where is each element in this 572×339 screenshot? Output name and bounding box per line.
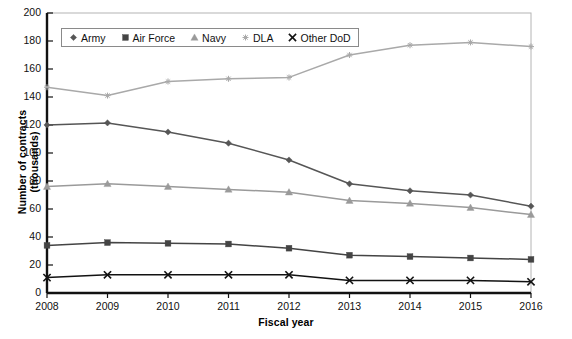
legend-item-label: Air Force [133,32,176,44]
data-point-marker [407,188,413,194]
data-point-marker [105,93,111,99]
x-axis-tick-label: 2009 [85,300,131,312]
data-point-marker [286,245,292,251]
data-point-marker [468,255,474,261]
data-point-marker [44,122,50,128]
data-point-marker [407,254,413,260]
y-axis-tick-label: 180 [7,34,41,46]
series-army [44,120,534,210]
data-point-marker [165,129,171,135]
legend-item-other-dod: Other DoD [288,32,350,44]
x-axis-tick-label: 2010 [145,300,191,312]
y-axis-tick-label: 120 [7,118,41,130]
series-navy [43,180,534,217]
x-axis-tick-label: 2016 [508,300,554,312]
data-point-marker [346,181,352,187]
star-marker-icon [241,33,250,42]
y-axis-tick-label: 20 [7,258,41,270]
series-line [47,42,531,95]
data-point-marker [44,84,50,90]
legend-item-label: Other DoD [300,32,350,44]
x-axis-tick-label: 2011 [206,300,252,312]
data-point-marker [165,79,171,85]
x-axis-tick-label: 2012 [266,300,312,312]
data-point-marker [407,42,413,48]
legend-item-navy: Navy [190,32,226,44]
y-axis-title: Number of contracts (thousands) [16,82,40,242]
data-point-marker [528,257,534,263]
legend-item-army: Army [69,32,106,44]
square-marker-icon [121,33,130,42]
series-other-dod [43,271,534,285]
data-point-marker [165,240,171,246]
cross-marker-icon [288,33,297,42]
x-axis-tick-label: 2015 [448,300,494,312]
data-point-marker [289,34,296,41]
triangle-marker-icon [190,33,199,42]
data-point-marker [528,203,534,209]
series-dla [44,39,534,98]
y-axis-tick-label: 80 [7,174,41,186]
series-air-force [44,240,534,263]
data-point-marker [226,76,232,82]
legend-item-label: Army [81,32,106,44]
data-point-marker [225,140,231,146]
data-point-marker [104,120,110,126]
y-axis-tick-label: 200 [7,6,41,18]
data-point-marker [467,192,473,198]
data-point-marker [468,39,474,45]
y-axis-tick-label: 0 [7,286,41,298]
y-axis-tick-label: 40 [7,230,41,242]
data-point-marker [286,74,292,80]
data-point-marker [347,52,353,58]
data-point-marker [528,44,534,50]
line-chart: Number of contracts (thousands) Fiscal y… [0,0,572,339]
legend-item-label: Navy [202,32,226,44]
data-point-marker [105,240,111,246]
data-point-marker [286,157,292,163]
x-axis-tick-label: 2013 [327,300,373,312]
y-axis-tick-label: 140 [7,90,41,102]
data-point-marker [44,243,50,249]
x-axis-tick-label: 2014 [387,300,433,312]
data-point-marker [191,34,198,40]
plot-area [0,0,572,339]
data-point-marker [122,35,128,41]
y-axis-tick-label: 100 [7,146,41,158]
legend-item-dla: DLA [241,32,273,44]
data-point-marker [243,35,249,41]
data-point-marker [347,252,353,258]
data-point-marker [226,241,232,247]
legend-item-air-force: Air Force [121,32,176,44]
legend-item-label: DLA [253,32,273,44]
chart-legend: ArmyAir ForceNavyDLAOther DoD [61,28,359,47]
x-axis-title: Fiscal year [0,316,572,328]
diamond-marker-icon [69,33,78,42]
data-point-marker [70,34,76,40]
y-axis-tick-label: 160 [7,62,41,74]
y-axis-tick-label: 60 [7,202,41,214]
x-axis-tick-label: 2008 [24,300,70,312]
